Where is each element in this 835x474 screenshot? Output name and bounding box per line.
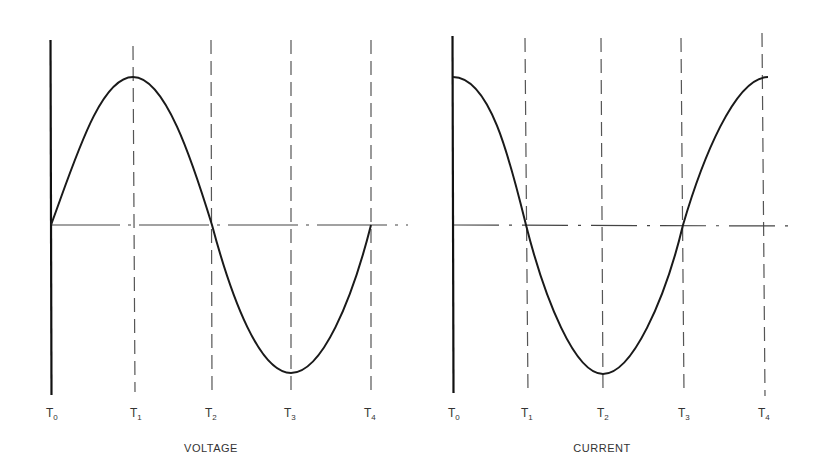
voltage-tick-t1: T1 [130,406,142,422]
current-tick-t3: T3 [678,406,690,422]
current-tick-labels: T0 T1 T2 T3 T4 [448,406,770,422]
voltage-panel: T0 T1 T2 T3 T4 VOLTAGE [46,40,408,454]
voltage-gridline-t2 [211,40,212,390]
current-tick-t2: T2 [597,406,609,422]
voltage-tick-t3: T3 [284,406,296,422]
voltage-time-gridlines [133,40,371,394]
waveform-diagram: T0 T1 T2 T3 T4 VOLTAGE T0 T1 T2 T3 T4 CU… [0,0,835,474]
current-time-gridlines [525,33,765,396]
current-gridline-t4 [762,33,765,396]
voltage-caption: VOLTAGE [184,442,238,454]
current-caption: CURRENT [573,442,630,454]
current-tick-t0: T0 [448,406,460,422]
voltage-tick-t0: T0 [46,406,58,422]
current-gridline-t2 [601,38,603,394]
current-tick-t1: T1 [521,406,533,422]
voltage-tick-labels: T0 T1 T2 T3 T4 [46,406,376,422]
current-gridline-t3 [681,38,684,394]
current-zero-axis [453,225,797,226]
voltage-tick-t4: T4 [364,406,376,422]
current-gridline-t1 [525,38,528,394]
voltage-gridline-t1 [133,46,135,392]
current-panel: T0 T1 T2 T3 T4 CURRENT [448,33,797,454]
voltage-y-axis [51,40,52,395]
current-tick-t4: T4 [758,406,770,422]
voltage-tick-t2: T2 [205,406,217,422]
current-y-axis [453,36,454,393]
